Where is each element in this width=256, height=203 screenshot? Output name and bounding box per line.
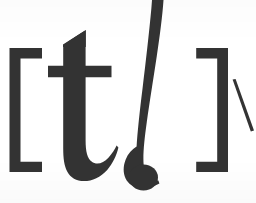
transcription-glyph-group <box>0 0 256 203</box>
scanned-page-canvas: [ tʃ ] [ tʃ ] \ Large black printed phon… <box>0 0 256 203</box>
letter-esh-bulb <box>129 165 158 191</box>
